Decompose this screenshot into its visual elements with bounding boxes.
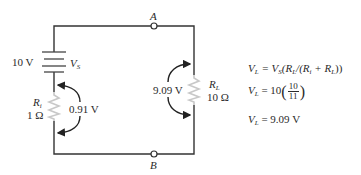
- wire-bottom-left: [54, 121, 151, 154]
- resistor-rl-icon: [189, 75, 199, 105]
- ri-voltage-arrow-bottom-icon: [58, 116, 80, 133]
- node-b-label: B: [150, 159, 157, 171]
- battery-icon: [42, 52, 66, 72]
- rl-voltage-arrow-bottom-icon: [168, 97, 190, 115]
- rl-voltage-label: 9.09 V: [153, 84, 183, 96]
- equation-voltage-divider: VL = VS(RL/(Ri + RL)): [248, 62, 342, 76]
- resistor-ri-icon: [49, 92, 59, 121]
- ri-value-label: 1 Ω: [27, 109, 43, 121]
- node-a-icon: [151, 23, 157, 29]
- ri-voltage-arrow-top-icon: [58, 85, 80, 102]
- rl-value-label: 10 Ω: [207, 91, 229, 103]
- node-a-label: A: [150, 10, 157, 22]
- source-symbol-label: VS: [70, 57, 80, 73]
- fraction: 1011: [288, 82, 299, 101]
- rl-voltage-arrow-top-icon: [168, 64, 190, 82]
- ri-voltage-label: 0.91 V: [69, 103, 99, 115]
- equation-result: VL = 9.09 V: [248, 113, 300, 127]
- equation-substitution: VL = 10(1011): [248, 82, 305, 101]
- wire-top-left: [54, 26, 151, 52]
- source-value-label: 10 V: [12, 56, 34, 68]
- node-b-icon: [151, 151, 157, 157]
- wire-bottom-right: [157, 105, 194, 154]
